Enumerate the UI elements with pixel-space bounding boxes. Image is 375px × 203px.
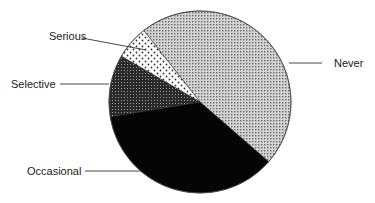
label-serious: Serious [49,30,87,42]
label-selective: Selective [11,78,56,90]
pie-chart: Serious Selective Occasional Never [0,0,375,203]
pie-slices [109,11,291,193]
label-occasional: Occasional [27,165,81,177]
label-never: Never [334,57,364,69]
